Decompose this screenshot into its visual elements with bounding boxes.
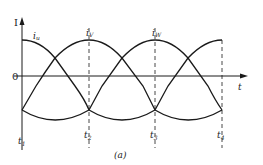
x-axis-arrow-icon xyxy=(240,74,248,79)
t3-label: t3 xyxy=(150,130,158,141)
t4-label: t4 xyxy=(217,130,225,141)
y-axis-arrow-icon xyxy=(20,17,25,25)
curve-lower-1 xyxy=(22,110,89,120)
curve-lower-2 xyxy=(89,110,155,120)
iv-label: iV xyxy=(86,28,94,38)
figure-caption: (a) xyxy=(114,150,127,160)
curve-iw xyxy=(89,40,222,110)
iw-label: iW xyxy=(152,28,162,38)
iu-label: iu xyxy=(33,31,40,41)
y-axis-label: I xyxy=(14,17,18,28)
curve-iv xyxy=(22,40,155,110)
curve-lower-3 xyxy=(155,110,222,120)
zero-label: 0 xyxy=(12,71,18,82)
x-axis-label: t xyxy=(238,82,242,92)
three-phase-current-diagram: I 0 t iu iV iW t1 t2 t3 t4 (a) xyxy=(0,0,263,165)
curve-iu-next xyxy=(155,40,222,110)
curve-iu xyxy=(22,40,89,110)
t2-label: t2 xyxy=(84,130,92,141)
